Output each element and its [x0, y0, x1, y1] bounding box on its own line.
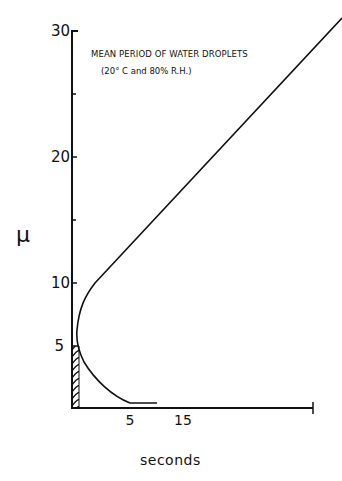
- y-tick-label-5: 5: [36, 337, 64, 355]
- x-tick-label-5: 5: [115, 412, 145, 428]
- x-axis-label: seconds: [140, 452, 201, 468]
- hatched-region: [72, 346, 79, 408]
- y-tick-label-10: 10: [42, 274, 70, 292]
- y-axis-label: µ: [16, 222, 30, 247]
- y-tick-label-20: 20: [42, 148, 70, 166]
- y-tick-label-30: 30: [42, 22, 70, 40]
- x-tick-label-15: 15: [168, 412, 198, 428]
- chart-title: MEAN PERIOD OF WATER DROPLETS: [91, 49, 248, 59]
- chart-subtitle: (20° C and 80% R.H.): [101, 66, 192, 76]
